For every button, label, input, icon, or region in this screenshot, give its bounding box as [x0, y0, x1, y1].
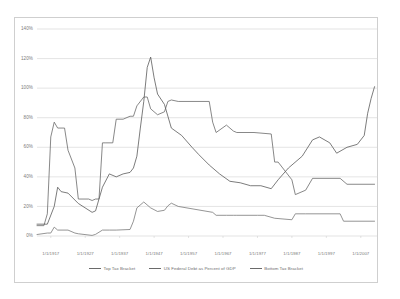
y-axis-tick-label: 80%	[9, 115, 33, 120]
legend-line-icon	[89, 268, 101, 269]
legend-line-icon	[149, 268, 161, 269]
y-axis-tick-label: 20%	[9, 204, 33, 209]
chart-legend: Top Tax Bracket US Federal Debt as Perce…	[14, 266, 378, 271]
y-axis-tick-label: 140%	[9, 26, 33, 31]
legend-item-label: Top Tax Bracket	[103, 266, 135, 271]
legend-item-bottom-tax-bracket[interactable]: Bottom Tax Bracket	[250, 266, 303, 271]
legend-item-label: US Federal Debt as Percent of GDP	[164, 266, 236, 271]
x-axis-tick-label: 1/1/2007	[341, 251, 381, 256]
legend-item-label: Bottom Tax Bracket	[264, 266, 303, 271]
chart-container: 0%20%40%60%80%100%120%140% 1/1/19171/1/1…	[0, 0, 400, 299]
y-axis-tick-label: 120%	[9, 56, 33, 61]
legend-line-icon	[250, 268, 262, 269]
y-axis-tick-label: 60%	[9, 144, 33, 149]
legend-item-top-tax-bracket[interactable]: Top Tax Bracket	[89, 266, 135, 271]
legend-item-us-federal-debt[interactable]: US Federal Debt as Percent of GDP	[149, 266, 235, 271]
y-axis-tick-label: 0%	[9, 233, 33, 238]
y-axis-tick-label: 100%	[9, 85, 33, 90]
y-axis-tick-label: 40%	[9, 174, 33, 179]
chart-plot-frame	[14, 17, 378, 283]
